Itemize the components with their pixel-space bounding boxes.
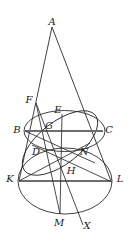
point-label-L: L [117, 174, 124, 184]
line-DL [32, 145, 112, 182]
point-label-K: K [6, 174, 13, 184]
geometry-figure: A F E B G C D N K H L M X [0, 0, 131, 241]
point-label-H: H [67, 166, 76, 176]
point-label-G: G [45, 121, 53, 131]
point-label-M: M [54, 218, 64, 228]
point-label-D: D [32, 147, 40, 157]
point-label-F: F [26, 95, 33, 105]
line-EM [60, 114, 62, 214]
point-label-A: A [48, 17, 55, 27]
line-FX [36, 103, 83, 225]
point-label-E: E [54, 105, 61, 115]
point-label-N: N [80, 147, 89, 157]
point-label-X: X [83, 221, 90, 231]
cone-outline [19, 27, 111, 181]
geometry-canvas [0, 0, 131, 241]
point-label-B: B [13, 125, 20, 135]
point-label-C: C [105, 125, 113, 135]
cone-left-side [19, 27, 52, 181]
